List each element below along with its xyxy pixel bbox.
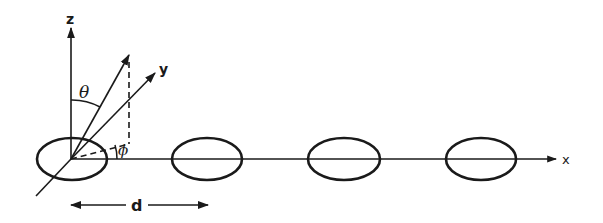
y-axis-label: y (159, 61, 168, 77)
y-axis-back (36, 159, 71, 196)
array-geometry-diagram: x z y θ ϕ d (0, 0, 603, 223)
theta-label: θ (79, 82, 89, 102)
phi-label: ϕ (118, 141, 128, 159)
x-axis-label: x (562, 152, 570, 167)
spacing-label: d (131, 196, 142, 215)
phi-arc (115, 145, 117, 159)
z-axis-label: z (66, 11, 74, 27)
